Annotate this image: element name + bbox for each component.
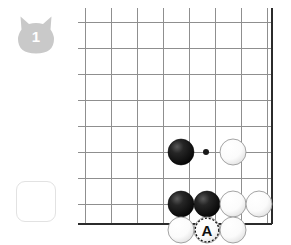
stone-black[interactable] [168, 139, 194, 165]
stone-black[interactable] [168, 191, 194, 217]
stone-body-black [168, 139, 194, 165]
stone-body-white [168, 217, 194, 243]
board-star-points [203, 149, 209, 155]
stone-white[interactable]: A [194, 217, 220, 243]
board-edge-lines [78, 8, 272, 224]
stone-white[interactable] [220, 217, 246, 243]
stone-body-black [168, 191, 194, 217]
go-problem-diagram: 1 A [0, 0, 291, 245]
stone-body-white [220, 191, 246, 217]
stone-body-black [194, 191, 220, 217]
hoshi-top-right-hoshi [203, 149, 209, 155]
board-stones[interactable]: A [168, 139, 272, 243]
stone-body-white [220, 139, 246, 165]
stone-white[interactable] [220, 139, 246, 165]
stone-white[interactable] [168, 217, 194, 243]
stone-label-a: A [202, 222, 213, 239]
stone-body-white [220, 217, 246, 243]
stone-white[interactable] [220, 191, 246, 217]
board-grid-lines [78, 8, 272, 224]
stone-body-white [246, 191, 272, 217]
stone-black[interactable] [194, 191, 220, 217]
go-board[interactable]: A [0, 0, 291, 245]
stone-white[interactable] [246, 191, 272, 217]
